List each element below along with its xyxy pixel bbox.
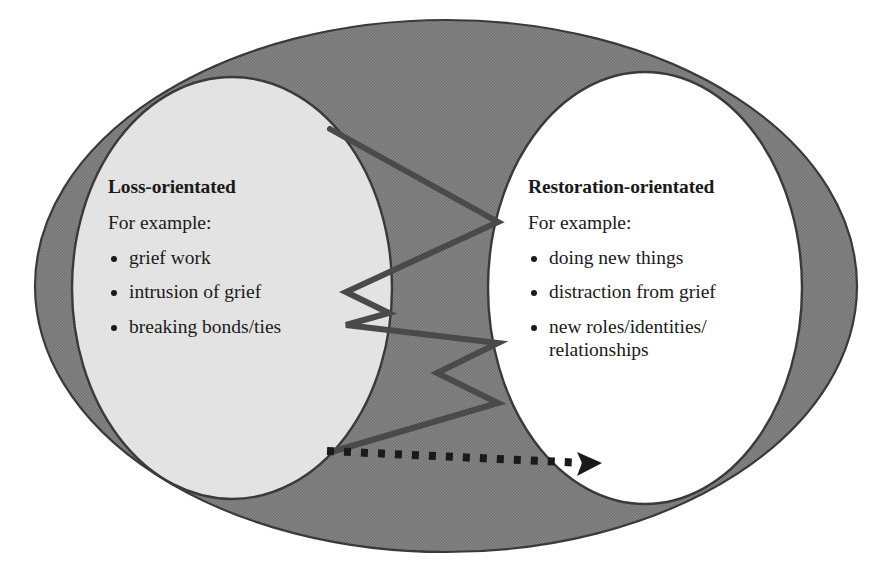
diagram-canvas: Loss-orientated For example: grief work … [0,0,894,570]
loss-orientated-text-block: Loss-orientated For example: grief work … [108,176,343,339]
list-item: new roles/identities/ relationships [528,316,796,361]
restoration-orientated-bullet-list: doing new things distraction from grief … [528,247,796,361]
restoration-orientated-subheading: For example: [528,212,796,233]
list-item: breaking bonds/ties [108,316,343,339]
list-item-line-2: relationships [549,339,796,362]
list-item: doing new things [528,247,796,270]
list-item-line-1: new roles/identities/ [549,316,707,337]
list-item: grief work [108,247,343,270]
restoration-orientated-text-block: Restoration-orientated For example: doin… [528,176,796,361]
loss-orientated-heading: Loss-orientated [108,176,343,197]
list-item: intrusion of grief [108,281,343,304]
list-item: distraction from grief [528,281,796,304]
loss-orientated-bullet-list: grief work intrusion of grief breaking b… [108,247,343,339]
restoration-orientated-heading: Restoration-orientated [528,176,796,197]
loss-orientated-subheading: For example: [108,212,343,233]
